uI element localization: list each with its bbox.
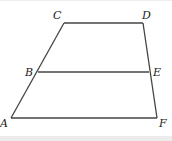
trapezoid-diagram: ABCDEF (0, 0, 172, 141)
diagram-canvas: ABCDEF (0, 0, 172, 141)
label-A: A (0, 117, 8, 130)
segment-AC (11, 23, 64, 118)
label-F: F (158, 117, 167, 130)
vertex-labels: ABCDEF (0, 9, 167, 130)
label-E: E (152, 66, 161, 79)
top-band (0, 0, 172, 1)
label-C: C (53, 9, 62, 22)
label-B: B (24, 66, 33, 79)
label-D: D (141, 9, 151, 22)
bottom-band (0, 136, 172, 141)
